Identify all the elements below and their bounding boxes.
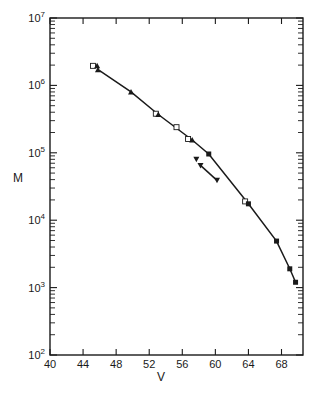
x-axis-ticks: 4044485256606468 [44, 18, 288, 370]
x-tick-label: 56 [176, 358, 188, 370]
y-tick-label: 106 [28, 77, 45, 91]
data-point-triangle-down [193, 157, 199, 163]
data-point-open-square [186, 137, 191, 142]
data-point-filled-square [274, 239, 279, 244]
chart-plot: 4044485256606468 102103104105106107 V M [0, 0, 318, 397]
x-tick-label: 52 [143, 358, 155, 370]
x-tick-label: 44 [77, 358, 89, 370]
data-points [90, 63, 298, 285]
x-tick-label: 48 [110, 358, 122, 370]
y-axis-ticks: 102103104105106107 [28, 10, 303, 361]
x-tick-label: 40 [44, 358, 56, 370]
x-axis-title: V [157, 370, 165, 384]
y-tick-label: 104 [28, 212, 45, 226]
data-point-open-square [174, 125, 179, 130]
fit-curve [100, 71, 296, 283]
y-tick-label: 103 [28, 280, 45, 294]
data-point-triangle-down [214, 178, 220, 184]
x-tick-label: 60 [209, 358, 221, 370]
fit-curves [100, 71, 296, 283]
x-tick-label: 68 [275, 358, 287, 370]
data-point-filled-square [287, 266, 292, 271]
data-point-filled-square [206, 151, 211, 156]
y-tick-label: 107 [28, 10, 45, 24]
y-axis-title: M [13, 171, 23, 185]
data-point-filled-square [293, 280, 298, 285]
plot-frame [50, 18, 303, 355]
data-point-filled-square [246, 201, 251, 206]
x-tick-label: 64 [242, 358, 254, 370]
y-tick-label: 105 [28, 145, 45, 159]
